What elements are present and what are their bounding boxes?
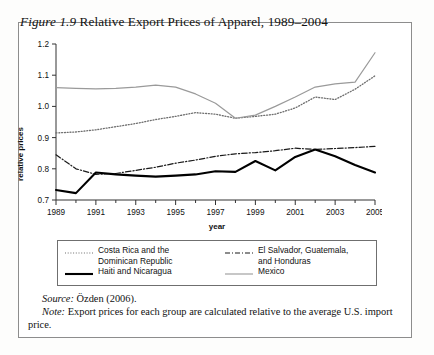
x-axis-label: year — [209, 222, 225, 231]
chart-legend: Costa Rica and the Dominican Republic El… — [57, 240, 377, 286]
series-line-mexico — [56, 53, 375, 119]
y-axis-label: relative prices — [16, 127, 25, 181]
chart-series-group — [56, 53, 375, 193]
svg-text:1999: 1999 — [246, 208, 265, 217]
svg-text:1989: 1989 — [47, 208, 66, 217]
figure-title: Figure 1.9 Relative Export Prices of App… — [20, 14, 328, 30]
chart-axes — [52, 44, 375, 205]
source-line: Source: Özden (2006). — [42, 293, 404, 305]
legend-label-mexico: Mexico — [258, 266, 285, 277]
svg-text:0.7: 0.7 — [38, 196, 50, 205]
source-text: Özden (2006). — [74, 293, 137, 304]
legend-swatch-dotted-icon — [65, 248, 93, 258]
figure-number: Figure 1.9 — [20, 14, 76, 29]
svg-text:1997: 1997 — [206, 208, 225, 217]
legend-item-costa-rica-dominican-republic: Costa Rica and the Dominican Republic — [58, 245, 218, 266]
chart-plot-area: 0.70.80.91.01.11.21989199119931995199719… — [12, 36, 382, 232]
figure-title-text: Relative Export Prices of Apparel, 1989–… — [80, 14, 328, 29]
svg-text:2005: 2005 — [366, 208, 382, 217]
legend-item-haiti-nicaragua: Haiti and Nicaragua — [58, 266, 218, 279]
svg-text:0.8: 0.8 — [38, 165, 50, 174]
legend-label-el-salvador-guatemala-honduras: El Salvador, Guatemala, and Honduras — [258, 245, 348, 266]
legend-item-mexico: Mexico — [218, 266, 378, 279]
legend-label-haiti-nicaragua: Haiti and Nicaragua — [98, 266, 172, 277]
svg-text:2003: 2003 — [326, 208, 345, 217]
note-text: Export prices for each group are calcula… — [28, 306, 393, 329]
series-line-costa-rica-and-the-dominican-republic — [56, 76, 375, 133]
svg-text:1.2: 1.2 — [38, 40, 50, 49]
figure-notes: Source: Özden (2006). Note: Export price… — [28, 293, 404, 331]
legend-label-costa-rica-dominican-republic: Costa Rica and the Dominican Republic — [98, 245, 172, 266]
source-lead: Source: — [42, 293, 74, 304]
note-lead: Note: — [42, 306, 65, 317]
svg-text:1.1: 1.1 — [38, 71, 50, 80]
svg-text:1995: 1995 — [167, 208, 186, 217]
legend-swatch-solid-thin-icon — [225, 269, 253, 279]
relative-export-prices-line-chart: 0.70.80.91.01.11.21989199119931995199719… — [12, 36, 382, 232]
svg-text:2001: 2001 — [286, 208, 305, 217]
svg-text:1991: 1991 — [87, 208, 106, 217]
figure-page: Figure 1.9 Relative Export Prices of App… — [0, 0, 434, 355]
series-line-el-salvador-guatemala-and-honduras — [56, 146, 375, 174]
svg-text:1993: 1993 — [127, 208, 146, 217]
svg-text:0.9: 0.9 — [38, 134, 50, 143]
legend-swatch-solid-bold-icon — [65, 269, 93, 279]
note-line: Note: Export prices for each group are c… — [28, 306, 404, 331]
legend-item-el-salvador-guatemala-honduras: El Salvador, Guatemala, and Honduras — [218, 245, 378, 266]
svg-text:1.0: 1.0 — [38, 102, 50, 111]
chart-tick-labels: 0.70.80.91.01.11.21989199119931995199719… — [38, 40, 382, 217]
legend-swatch-dashdot-icon — [225, 248, 253, 258]
